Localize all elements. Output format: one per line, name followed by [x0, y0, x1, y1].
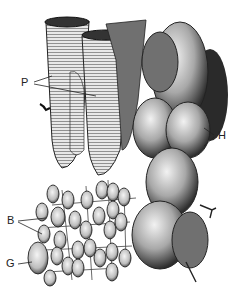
label-h: H — [218, 130, 226, 141]
label-p: P — [21, 77, 28, 88]
illustration-canvas: P H B G — [0, 0, 246, 296]
hydroid-drawing — [0, 0, 246, 296]
polyp-tubes — [40, 17, 146, 175]
hydrotheca-cluster — [132, 22, 228, 282]
bud-network — [28, 180, 136, 286]
label-b: B — [7, 215, 14, 226]
label-g: G — [6, 258, 15, 269]
gonophore — [28, 242, 48, 274]
